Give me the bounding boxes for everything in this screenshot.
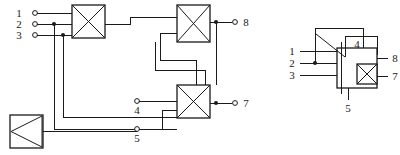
- schematic-drawing: 1 2 3 4 5 8 7: [0, 0, 400, 155]
- terminal-tap-5[interactable]: [135, 127, 140, 132]
- label-r-tap-4: 4: [354, 38, 360, 50]
- label-r-input-2: 2: [289, 57, 295, 69]
- label-r-output-8: 8: [392, 52, 398, 64]
- diagram-canvas: 1 2 3 4 5 8 7: [0, 0, 400, 155]
- amplifier[interactable]: [10, 115, 43, 148]
- terminal-out-8[interactable]: [233, 20, 238, 25]
- label-output-7: 7: [243, 97, 249, 109]
- label-tap-4: 4: [134, 104, 140, 116]
- terminal-in-3[interactable]: [33, 33, 38, 38]
- wire-tap-5: [139, 110, 177, 129]
- wire-b-loop-2: [155, 42, 205, 85]
- label-r-input-3: 3: [289, 69, 295, 81]
- label-tap-5: 5: [134, 132, 140, 144]
- left-circuit: 1 2 3 4 5 8 7: [10, 5, 249, 148]
- terminal-in-1[interactable]: [33, 11, 38, 16]
- right-circuit: 1 2 3 4 5 8 7: [289, 28, 398, 114]
- junction-dot-out-7: [214, 101, 218, 105]
- label-input-3: 3: [16, 29, 22, 41]
- label-r-input-1: 1: [289, 45, 295, 57]
- label-output-8: 8: [243, 16, 249, 28]
- label-r-output-7: 7: [392, 70, 398, 82]
- label-r-tap-5: 5: [345, 102, 351, 114]
- terminal-out-7[interactable]: [233, 101, 238, 106]
- terminal-tap-4[interactable]: [135, 99, 140, 104]
- wire-a-to-b: [105, 17, 177, 24]
- terminal-in-2[interactable]: [33, 22, 38, 27]
